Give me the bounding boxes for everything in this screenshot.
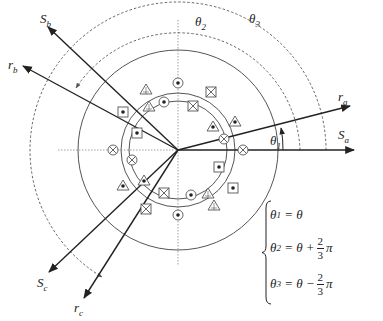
angle-equations: θ1 = θ θ2 = θ + 23π θ3 = θ − 23π [270,200,333,302]
rc-axis [84,150,178,298]
fraction-two-thirds: 23 [317,272,325,297]
cross-in-square-icon [159,188,169,198]
cross-in-square-icon [206,87,216,97]
cross-in-circle-icon [219,134,229,144]
dot-in-circle-icon [173,210,183,220]
cross-in-circle-icon [108,145,118,155]
label-rc: rc [74,301,83,318]
hatched-triangle-icon [202,188,214,198]
dot-in-square-icon [228,183,238,193]
dot-in-square-icon [132,128,142,138]
Sb-axis [48,27,178,150]
cross-in-circle-icon [238,145,248,155]
dot-in-circle-icon [159,97,169,107]
rb-axis [23,66,178,150]
reference-crosshair [58,20,178,265]
label-Sb: Sb [40,12,51,29]
equation-theta1: θ1 = θ [270,200,333,230]
Sc-axis [49,150,178,272]
dot-in-square-icon [118,107,128,117]
dot-in-circle-icon [186,190,196,200]
hatched-triangle-icon [208,200,220,210]
label-theta2: θ2 [195,15,206,32]
theta1-arc [281,128,283,150]
cross-in-square-icon [188,101,198,111]
cross-in-square-icon [141,204,151,214]
equation-theta2: θ2 = θ + 23π [270,230,333,266]
label-ra: ra [338,90,348,107]
label-rb: rb [8,58,18,75]
dot-in-triangle-icon [207,121,219,131]
equation-theta3: θ3 = θ − 23π [270,266,333,302]
dot-in-square-icon [214,162,224,172]
dot-in-triangle-icon [117,180,129,190]
cross-in-circle-icon [127,155,137,165]
ra-axis [178,106,350,150]
label-Sc: Sc [37,276,48,293]
label-theta1: θ1 [270,134,281,151]
label-theta3: θ3 [249,12,260,29]
hatched-triangle-icon [140,84,152,94]
hatched-triangle-icon [143,101,155,111]
label-Sa: Sa [338,128,349,145]
dot-in-triangle-icon [229,116,241,126]
dot-in-circle-icon [173,78,183,88]
fraction-two-thirds: 23 [317,236,325,261]
